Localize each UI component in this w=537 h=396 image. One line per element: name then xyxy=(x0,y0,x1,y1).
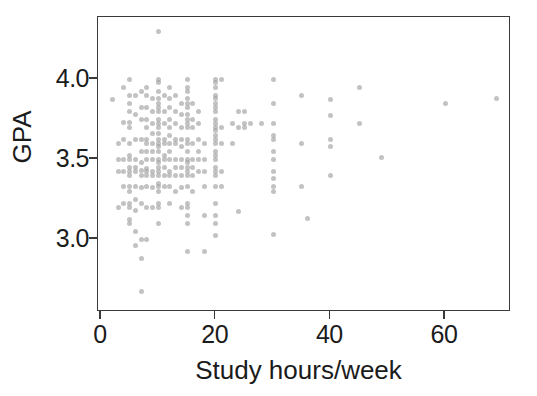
data-point xyxy=(202,141,207,146)
data-point xyxy=(196,149,201,154)
data-point xyxy=(162,173,167,178)
y-tick-mark xyxy=(89,77,97,79)
scatter-plot-figure: GPA 3.03.54.0 0204060 Study hours/week xyxy=(0,0,537,396)
data-point xyxy=(150,185,155,190)
data-point xyxy=(162,184,167,189)
data-point xyxy=(156,205,161,210)
data-point xyxy=(127,125,132,130)
data-point xyxy=(127,189,132,194)
data-point xyxy=(144,93,149,98)
x-tick-mark xyxy=(443,311,445,319)
data-point xyxy=(133,93,138,98)
data-point xyxy=(185,249,190,254)
data-point xyxy=(213,80,218,85)
data-point xyxy=(162,141,167,146)
data-point xyxy=(173,189,178,194)
data-point xyxy=(328,144,333,149)
data-point xyxy=(139,160,144,165)
data-point xyxy=(156,80,161,85)
data-point xyxy=(144,157,149,162)
data-point xyxy=(156,131,161,136)
data-point xyxy=(213,213,218,218)
y-tick-label: 3.0 xyxy=(56,224,89,253)
data-point xyxy=(213,201,218,206)
data-point xyxy=(139,105,144,110)
data-point xyxy=(179,205,184,210)
data-point xyxy=(144,173,149,178)
data-point xyxy=(173,109,178,114)
data-point xyxy=(121,157,126,162)
data-point xyxy=(167,157,172,162)
data-point xyxy=(167,125,172,130)
data-point xyxy=(156,189,161,194)
y-tick-label: 3.5 xyxy=(56,144,89,173)
data-point xyxy=(190,141,195,146)
data-point xyxy=(173,141,178,146)
data-point xyxy=(156,149,161,154)
data-point xyxy=(150,131,155,136)
data-point xyxy=(121,137,126,142)
data-point xyxy=(299,141,304,146)
x-tick-mark xyxy=(329,311,331,319)
data-point xyxy=(127,141,132,146)
data-point xyxy=(162,121,167,126)
data-point xyxy=(202,169,207,174)
data-point xyxy=(156,184,161,189)
data-point xyxy=(127,184,132,189)
y-tick-mark xyxy=(89,237,97,239)
data-point xyxy=(139,201,144,206)
data-point xyxy=(139,149,144,154)
x-axis-title: Study hours/week xyxy=(0,355,537,386)
data-point xyxy=(150,109,155,114)
data-point xyxy=(116,205,121,210)
data-point xyxy=(139,137,144,142)
y-tick-label: 4.0 xyxy=(56,64,89,93)
data-point xyxy=(162,157,167,162)
data-point xyxy=(179,137,184,142)
data-point xyxy=(133,157,138,162)
data-point xyxy=(202,157,207,162)
data-point xyxy=(156,29,161,34)
data-point xyxy=(494,96,499,101)
data-point xyxy=(167,201,172,206)
data-point xyxy=(379,155,384,160)
data-point xyxy=(271,176,276,181)
data-point xyxy=(213,157,218,162)
data-point xyxy=(271,77,276,82)
data-point xyxy=(139,173,144,178)
data-point xyxy=(242,125,247,130)
data-point xyxy=(133,184,138,189)
data-point xyxy=(162,93,167,98)
data-point xyxy=(179,173,184,178)
data-point xyxy=(242,109,247,114)
data-point xyxy=(179,112,184,117)
data-point xyxy=(162,165,167,170)
data-point xyxy=(185,105,190,110)
data-point xyxy=(167,184,172,189)
data-point xyxy=(179,165,184,170)
data-point xyxy=(156,173,161,178)
data-point xyxy=(133,229,138,234)
data-point xyxy=(150,141,155,146)
x-tick-mark xyxy=(99,311,101,319)
data-point xyxy=(185,77,190,82)
data-point xyxy=(144,205,149,210)
data-point xyxy=(167,96,172,101)
data-point xyxy=(190,173,195,178)
data-point xyxy=(156,89,161,94)
x-tick-label: 60 xyxy=(431,320,458,349)
data-point xyxy=(121,85,126,90)
data-point xyxy=(121,201,126,206)
data-point xyxy=(271,189,276,194)
data-point xyxy=(236,109,241,114)
data-point xyxy=(144,117,149,122)
data-point xyxy=(156,221,161,226)
data-point xyxy=(185,205,190,210)
data-point xyxy=(167,105,172,110)
data-point xyxy=(179,157,184,162)
data-point xyxy=(185,125,190,130)
data-point xyxy=(156,96,161,101)
data-points-layer xyxy=(98,17,509,310)
data-point xyxy=(196,169,201,174)
data-point xyxy=(185,173,190,178)
